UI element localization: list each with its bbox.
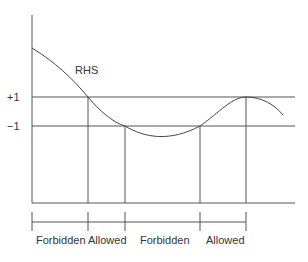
region-label-forbidden-2: Forbidden <box>140 234 190 246</box>
plus-one-label: +1 <box>7 91 20 103</box>
region-label-forbidden-1: Forbidden <box>36 234 86 246</box>
rhs-curve <box>32 48 283 137</box>
region-label-allowed-1: Allowed <box>88 234 127 246</box>
rhs-label: RHS <box>75 64 98 76</box>
minus-one-label: −1 <box>7 120 20 132</box>
diagram-canvas: RHS +1 −1 Forbidden Allowed Forbidden Al… <box>0 0 308 262</box>
region-label-allowed-2: Allowed <box>206 234 245 246</box>
band-diagram: RHS +1 −1 Forbidden Allowed Forbidden Al… <box>0 0 308 262</box>
